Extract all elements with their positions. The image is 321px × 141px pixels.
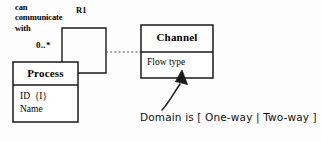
uml-class-diagram: can communicate with R1 0..* Process ID … [0, 0, 321, 141]
process-class-title: Process [13, 67, 78, 79]
association-verb-phrase: can communicate with [15, 2, 63, 33]
channel-class-title: Channel [141, 31, 213, 43]
domain-annotation-text: Domain is [ One-way | Two-way ] [140, 112, 317, 123]
process-class-attributes: ID {I} Name [20, 90, 47, 115]
multiplicity-label: 0..* [36, 41, 51, 51]
relationship-id-label: R1 [76, 6, 87, 15]
channel-class-attributes: Flow type [147, 56, 185, 69]
